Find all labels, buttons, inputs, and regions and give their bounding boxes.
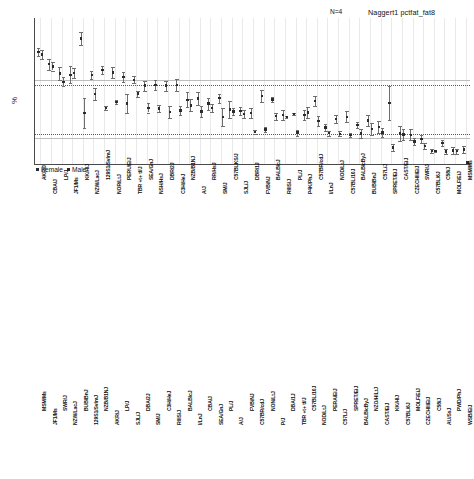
error-bar-cap — [242, 110, 246, 111]
panel-title-naggert1: Naggert1 pctfat_fat8 — [368, 8, 435, 17]
data-point — [317, 120, 319, 122]
data-point — [410, 134, 412, 136]
data-point — [169, 111, 171, 113]
x-axis-tick-label: NON/LtJ — [270, 391, 276, 411]
vertical-gridline — [40, 18, 41, 164]
x-axis-tick-label: CAST/EiJ — [384, 403, 390, 425]
error-bar-cap — [306, 107, 310, 108]
error-bar-cap — [285, 118, 289, 119]
x-axis-tick-label: RIIIS/J — [286, 179, 292, 194]
error-bar-cap — [409, 129, 413, 130]
x-axis-tick-label: SM/J — [155, 414, 161, 426]
x-axis-tick-label: MOLF/EiJ — [456, 171, 462, 194]
error-bar-cap — [413, 138, 417, 139]
panel-tordoff3: Tordoff3 pct_fat % 1520253035404550 Fema… — [0, 240, 474, 479]
x-axis-tick-label: NZW/LacJ — [72, 401, 78, 425]
error-bar-cap — [239, 107, 243, 108]
error-bar-cap — [441, 146, 445, 147]
error-bar-cap — [327, 136, 331, 137]
x-axis-tick-label: BUB/BnJ — [371, 173, 377, 194]
error-bar-cap — [242, 118, 246, 119]
error-bar-cap — [186, 92, 190, 93]
data-point — [445, 150, 447, 152]
error-bar-cap — [264, 132, 268, 133]
x-axis-tick-label: KK/HlJ — [394, 395, 400, 411]
x-axis-tick-label: DBA/2J — [145, 393, 151, 411]
data-point — [137, 92, 139, 94]
error-bar-cap — [398, 126, 402, 127]
data-point — [349, 134, 351, 136]
data-point — [73, 72, 75, 74]
vertical-gridline — [72, 18, 73, 164]
vertical-gridline — [359, 18, 360, 164]
error-bar-cap — [409, 140, 413, 141]
x-axis-tick-label: PWD/PhJ — [456, 389, 462, 411]
data-point — [115, 101, 117, 103]
x-axis-tick-label: C57BL/10J — [350, 169, 356, 194]
error-bar-cap — [303, 110, 307, 111]
data-point — [314, 100, 316, 102]
error-bar-cap — [154, 90, 158, 91]
error-bar-cap — [157, 105, 161, 106]
error-bar-cap — [79, 32, 83, 33]
error-bar-cap — [377, 121, 381, 122]
x-axis-tick-label: C57BLKS/J — [233, 153, 239, 180]
vertical-gridline — [402, 18, 403, 164]
error-bar-cap — [391, 151, 395, 152]
error-bar-cap — [232, 115, 236, 116]
data-point — [179, 109, 181, 111]
x-axis-tick-label: BALB/cByJ — [363, 398, 369, 425]
error-bar-cap — [303, 120, 307, 121]
vertical-gridline — [189, 18, 190, 164]
x-axis-tick-label: C3H/HeJ — [180, 174, 186, 194]
error-bar-cap — [210, 112, 214, 113]
data-point — [371, 128, 373, 130]
vertical-gridline — [264, 18, 265, 164]
vertical-gridline — [444, 18, 445, 164]
error-bar-cap — [249, 118, 253, 119]
vertical-gridline — [253, 18, 254, 164]
error-bar-cap — [221, 126, 225, 127]
x-axis-tick-label: AKR/J — [114, 410, 120, 425]
error-bar-cap — [122, 72, 126, 73]
error-bar-cap — [143, 91, 147, 92]
error-bar-cap — [260, 102, 264, 103]
x-axis-tick-label: SJL/J — [243, 181, 249, 194]
x-axis-tick-label: C58/J — [436, 398, 442, 411]
error-bar-cap — [228, 101, 232, 102]
data-point — [271, 98, 273, 100]
error-bar-cap — [444, 154, 448, 155]
x-axis-tick-label: SPRET/EiJ — [392, 169, 398, 194]
data-point — [413, 140, 415, 142]
error-bar-cap — [338, 136, 342, 137]
x-axis-tick-label: DBR/2J — [169, 162, 175, 180]
vertical-gridline — [179, 18, 180, 164]
error-bar-cap — [324, 124, 328, 125]
error-bar-cap — [111, 67, 115, 68]
error-bar-cap — [200, 106, 204, 107]
data-point — [275, 115, 277, 117]
vertical-gridline — [285, 18, 286, 164]
error-bar-cap — [175, 91, 179, 92]
data-point — [222, 116, 224, 118]
data-point — [356, 124, 358, 126]
error-bar-cap — [51, 62, 55, 63]
vertical-gridline — [466, 18, 467, 164]
error-bar-cap — [62, 86, 66, 87]
error-bar-cap — [115, 104, 119, 105]
error-bar-cap — [402, 140, 406, 141]
error-bar-cap — [377, 133, 381, 134]
error-bar-cap — [104, 110, 108, 111]
error-bar-cap — [359, 138, 363, 139]
data-point — [83, 112, 85, 114]
error-bar-cap — [402, 129, 406, 130]
x-axis-tick-label: CBA/J — [52, 179, 58, 194]
error-bar-cap — [147, 103, 151, 104]
error-bar-cap — [313, 106, 317, 107]
data-point — [367, 119, 369, 121]
error-bar-cap — [72, 78, 76, 79]
data-point — [144, 84, 146, 86]
error-bar-cap — [359, 129, 363, 130]
data-point — [158, 107, 160, 109]
error-bar-cap — [143, 81, 147, 82]
